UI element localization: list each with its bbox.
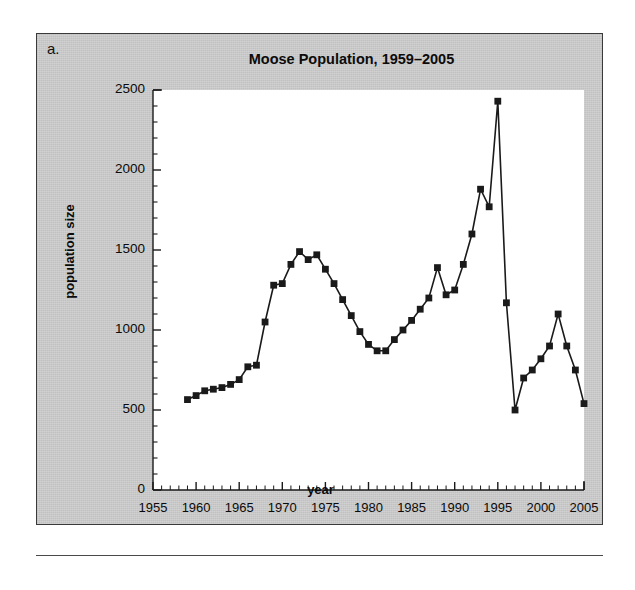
data-point-marker: [331, 280, 338, 287]
x-tick-label: 1990: [432, 500, 478, 515]
data-point-marker: [193, 392, 200, 399]
x-tick-label: 1995: [475, 500, 521, 515]
data-point-marker: [460, 261, 467, 268]
data-point-marker: [296, 248, 303, 255]
data-point-marker: [581, 400, 588, 407]
data-point-marker: [184, 396, 191, 403]
data-point-marker: [529, 367, 536, 374]
x-tick-label: 2005: [561, 500, 607, 515]
data-point-marker: [201, 387, 208, 394]
data-point-marker: [227, 381, 234, 388]
data-point-marker: [469, 231, 476, 238]
data-point-marker: [322, 266, 329, 273]
y-tick-label: 0: [93, 481, 145, 496]
y-tick-label: 500: [93, 401, 145, 416]
data-point-marker: [494, 98, 501, 105]
data-point-marker: [503, 299, 510, 306]
data-point-marker: [391, 336, 398, 343]
data-point-marker: [572, 367, 579, 374]
x-tick-label: 1955: [130, 500, 176, 515]
data-point-marker: [236, 376, 243, 383]
y-tick-label: 2500: [93, 81, 145, 96]
data-point-marker: [219, 384, 226, 391]
data-point-marker: [244, 363, 251, 370]
data-point-marker: [313, 251, 320, 258]
data-point-marker: [451, 287, 458, 294]
horizontal-rule: [36, 555, 603, 556]
data-point-marker: [374, 347, 381, 354]
data-point-marker: [546, 343, 553, 350]
x-tick-label: 1965: [216, 500, 262, 515]
data-point-marker: [520, 375, 527, 382]
data-point-marker: [443, 291, 450, 298]
x-tick-label: 1985: [389, 500, 435, 515]
data-point-marker: [425, 295, 432, 302]
data-point-marker: [305, 256, 312, 263]
y-tick-label: 1000: [93, 321, 145, 336]
data-point-marker: [400, 327, 407, 334]
data-point-marker: [348, 312, 355, 319]
plot-area-background: [153, 90, 584, 490]
data-point-marker: [417, 306, 424, 313]
x-tick-label: 2000: [518, 500, 564, 515]
line-chart-plot: [37, 34, 604, 526]
data-point-marker: [555, 311, 562, 318]
y-tick-label: 2000: [93, 161, 145, 176]
data-point-marker: [382, 347, 389, 354]
data-point-marker: [365, 341, 372, 348]
data-point-marker: [434, 264, 441, 271]
chart-title: Moose Population, 1959–2005: [37, 51, 604, 67]
data-point-marker: [486, 203, 493, 210]
data-point-marker: [288, 261, 295, 268]
x-tick-label: 1970: [259, 500, 305, 515]
data-point-marker: [279, 280, 286, 287]
data-point-marker: [270, 282, 277, 289]
y-axis-label: population size: [62, 182, 77, 322]
data-point-marker: [210, 386, 217, 393]
data-point-marker: [253, 362, 260, 369]
data-point-marker: [339, 296, 346, 303]
data-point-marker: [512, 407, 519, 414]
x-tick-label: 1960: [173, 500, 219, 515]
figure-container: a. Moose Population, 1959–2005 populatio…: [0, 0, 635, 590]
data-point-marker: [408, 317, 415, 324]
data-point-marker: [477, 186, 484, 193]
data-point-marker: [262, 319, 269, 326]
x-tick-label: 1980: [346, 500, 392, 515]
x-tick-label: 1975: [302, 500, 348, 515]
data-point-marker: [538, 355, 545, 362]
chart-panel: a. Moose Population, 1959–2005 populatio…: [36, 33, 603, 525]
data-point-marker: [563, 343, 570, 350]
y-tick-label: 1500: [93, 241, 145, 256]
data-point-marker: [356, 328, 363, 335]
